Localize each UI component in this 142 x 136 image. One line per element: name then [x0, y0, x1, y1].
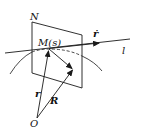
diagram: N M(s) ṙ l r R O — [0, 0, 142, 136]
vector-R — [37, 70, 73, 118]
label-vector-R: R — [49, 95, 58, 106]
label-line-l: l — [122, 45, 125, 56]
label-origin: O — [30, 118, 38, 129]
label-point-m: M(s) — [37, 37, 61, 48]
plane-n — [32, 22, 82, 88]
label-vector-r: r — [35, 88, 41, 99]
curve — [10, 49, 102, 74]
label-plane-n: N — [29, 11, 40, 22]
vector-m-to-p — [49, 49, 72, 69]
label-tangent: ṙ — [93, 28, 99, 39]
vector-r — [37, 51, 49, 118]
